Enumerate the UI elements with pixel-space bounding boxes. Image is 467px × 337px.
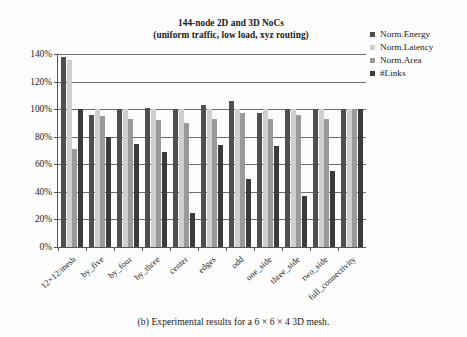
y-tick-label: 0% <box>12 242 52 252</box>
bar[interactable] <box>341 109 346 247</box>
chart-title-line-2: (uniform traffic, low load, xyz routing) <box>96 30 366 42</box>
y-tick-label: 140% <box>12 49 52 59</box>
x-tick-mark <box>338 247 339 251</box>
bar[interactable] <box>296 115 301 247</box>
bar[interactable] <box>156 120 161 247</box>
bar-group <box>198 54 226 247</box>
bar[interactable] <box>117 109 122 247</box>
bar[interactable] <box>330 171 335 247</box>
legend-item-links[interactable]: #Links <box>370 67 466 80</box>
legend-swatch-icon <box>370 32 375 37</box>
legend-swatch-icon <box>370 71 375 76</box>
bar[interactable] <box>263 109 268 247</box>
x-label-cell: by_five <box>85 252 113 304</box>
bar[interactable] <box>100 116 105 247</box>
bar[interactable] <box>72 149 77 247</box>
bar[interactable] <box>89 115 94 247</box>
bar-group <box>170 54 198 247</box>
bar-group <box>58 54 86 247</box>
bar[interactable] <box>246 179 251 247</box>
bar[interactable] <box>162 152 167 247</box>
chart-title-line-1: 144-node 2D and 3D NoCs <box>96 18 366 30</box>
x-tick-mark <box>198 247 199 251</box>
x-label-cell: by_three <box>141 252 169 304</box>
x-tick-mark <box>58 247 59 251</box>
bar[interactable] <box>95 109 100 247</box>
bar[interactable] <box>151 109 156 247</box>
bar[interactable] <box>218 145 223 247</box>
bar-group <box>86 54 114 247</box>
x-tick-mark <box>114 247 115 251</box>
chart-legend: Norm.EnergyNorm.LatencyNorm.Area#Links <box>370 28 466 80</box>
bar[interactable] <box>128 119 133 247</box>
x-tick-mark <box>282 247 283 251</box>
figure-caption: (b) Experimental results for a 6 × 6 × 4… <box>0 316 467 327</box>
x-label-cell: center <box>169 252 197 304</box>
bar[interactable] <box>201 105 206 247</box>
bar[interactable] <box>145 108 150 247</box>
legend-item-norm-energy[interactable]: Norm.Energy <box>370 28 466 41</box>
bar-group <box>254 54 282 247</box>
bar[interactable] <box>268 119 273 247</box>
bar[interactable] <box>190 213 195 247</box>
bar[interactable] <box>285 109 290 247</box>
bar[interactable] <box>229 101 234 247</box>
x-axis-tick-label: odd <box>229 254 246 270</box>
bar[interactable] <box>235 109 240 247</box>
x-axis-tick-label: edges <box>196 254 218 275</box>
bar[interactable] <box>106 137 111 247</box>
bar-group <box>282 54 310 247</box>
legend-label: Norm.Energy <box>380 29 430 40</box>
x-tick-mark <box>310 247 311 251</box>
y-tick-label: 120% <box>12 77 52 87</box>
bar-group <box>114 54 142 247</box>
bar[interactable] <box>358 109 363 247</box>
chart-title: 144-node 2D and 3D NoCs (uniform traffic… <box>96 18 366 41</box>
legend-label: #Links <box>380 68 406 79</box>
y-tick-label: 40% <box>12 187 52 197</box>
legend-swatch-icon <box>370 58 375 63</box>
x-tick-mark <box>254 247 255 251</box>
x-label-cell: edges <box>197 252 225 304</box>
bar[interactable] <box>173 109 178 247</box>
bar-group <box>310 54 338 247</box>
bar[interactable] <box>324 119 329 247</box>
bar[interactable] <box>240 113 245 247</box>
x-tick-mark <box>226 247 227 251</box>
y-tick-label: 60% <box>12 159 52 169</box>
bar[interactable] <box>179 109 184 247</box>
bar[interactable] <box>313 109 318 247</box>
bar[interactable] <box>184 123 189 247</box>
bar[interactable] <box>347 109 352 247</box>
bar[interactable] <box>78 109 83 247</box>
bar-group <box>226 54 254 247</box>
x-label-cell: 12×12/mesh <box>57 252 85 304</box>
x-label-cell: full_connectivity <box>337 252 365 304</box>
legend-label: Norm.Latency <box>380 42 433 53</box>
bar-group <box>142 54 170 247</box>
bar-group <box>338 54 366 247</box>
x-axis-labels: 12×12/meshby_fiveby_fourby_threecentered… <box>57 252 365 304</box>
bar[interactable] <box>67 60 72 247</box>
bar[interactable] <box>291 109 296 247</box>
bar[interactable] <box>274 146 279 247</box>
y-tick-label: 80% <box>12 132 52 142</box>
x-tick-mark <box>142 247 143 251</box>
bar[interactable] <box>212 119 217 247</box>
bar[interactable] <box>352 109 357 247</box>
bar[interactable] <box>319 109 324 247</box>
bar[interactable] <box>207 109 212 247</box>
legend-item-norm-latency[interactable]: Norm.Latency <box>370 41 466 54</box>
bar-groups <box>58 54 366 247</box>
figure-container: 144-node 2D and 3D NoCs (uniform traffic… <box>0 0 467 337</box>
y-tick-label: 20% <box>12 214 52 224</box>
x-tick-mark <box>86 247 87 251</box>
y-tick-label: 100% <box>12 104 52 114</box>
legend-item-norm-area[interactable]: Norm.Area <box>370 54 466 67</box>
bar[interactable] <box>61 57 66 247</box>
x-tick-mark <box>170 247 171 251</box>
bar[interactable] <box>257 113 262 247</box>
bar[interactable] <box>134 144 139 247</box>
bar[interactable] <box>302 196 307 247</box>
bar[interactable] <box>123 109 128 247</box>
